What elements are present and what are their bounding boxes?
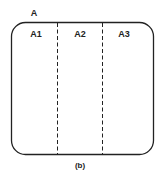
outer-region-box (12, 23, 154, 155)
region-label-a2: A2 (74, 29, 86, 39)
diagram-canvas (0, 0, 159, 179)
region-label-a1: A1 (30, 29, 42, 39)
outer-label: A (31, 8, 38, 18)
region-label-a3: A3 (118, 29, 130, 39)
caption: (b) (75, 161, 85, 170)
